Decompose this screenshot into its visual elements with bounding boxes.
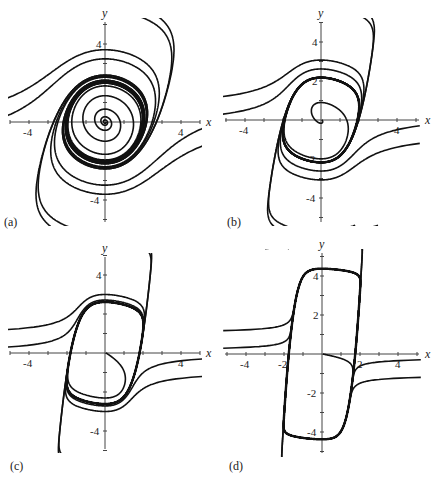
- axes: [225, 253, 419, 453]
- axes: [10, 256, 200, 451]
- x-tick-label: -4: [23, 126, 33, 138]
- trajectory-outer: [48, 239, 152, 404]
- panel-c: -444-4xy (c): [0, 239, 219, 478]
- y-axis-label: y: [317, 6, 324, 20]
- panel-label-c: (c): [10, 459, 23, 474]
- panel-label-a: (a): [4, 215, 17, 230]
- x-tick-label: 4: [178, 126, 184, 138]
- y-axis-label: y: [101, 6, 108, 20]
- x-tick-label: 4: [178, 357, 184, 369]
- panel-label-d: (d): [229, 459, 243, 474]
- y-tick-label: -2: [307, 387, 316, 399]
- panel-d: -4-22442-2-4xy (d): [219, 239, 438, 478]
- x-tick-label: -2: [278, 358, 287, 370]
- x-tick-label: -4: [239, 124, 249, 136]
- phase-plot-a: -444-4xy: [0, 0, 219, 239]
- trajectory-outer: [63, 11, 172, 169]
- y-tick-label: 4: [96, 269, 102, 281]
- y-tick-label: 4: [96, 38, 102, 50]
- x-axis-label: x: [205, 115, 212, 129]
- y-tick-label: 4: [312, 36, 318, 48]
- y-tick-label: 2: [313, 309, 319, 321]
- phase-plot-d: -4-22442-2-4xy: [219, 239, 438, 478]
- x-axis-label: x: [424, 347, 431, 361]
- panel-label-b: (b): [227, 215, 241, 230]
- x-axis-label: x: [424, 113, 431, 127]
- y-tick-label: -4: [90, 194, 100, 206]
- y-tick-label: -4: [90, 425, 100, 437]
- phase-plot-b: -4442-2-4xy: [219, 0, 438, 239]
- trajectory-outer: [66, 302, 204, 406]
- phase-plot-c: -444-4xy: [0, 239, 219, 478]
- x-tick-label: -4: [23, 357, 33, 369]
- panel-b: -4442-2-4xy (b): [219, 0, 438, 239]
- panel-a: -444-4xy (a): [0, 0, 219, 239]
- x-tick-label: -4: [240, 358, 250, 370]
- y-tick-label: 4: [313, 270, 319, 282]
- y-axis-label: y: [101, 241, 108, 255]
- x-axis-label: x: [205, 346, 212, 360]
- y-tick-label: -4: [307, 426, 317, 438]
- y-axis-label: y: [318, 239, 325, 251]
- y-tick-label: -4: [306, 192, 316, 204]
